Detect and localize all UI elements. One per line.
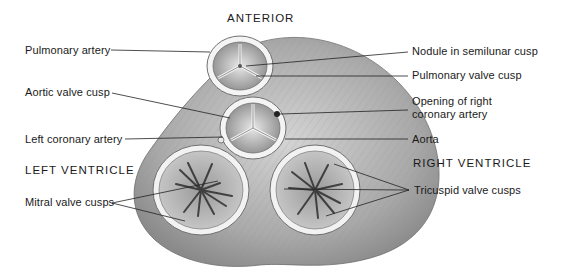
opening-rca-label-line1: Opening of right <box>412 95 492 108</box>
tricuspid-valve <box>270 145 360 235</box>
left-ventricle-label: LEFT VENTRICLE <box>25 164 135 176</box>
left-coronary-artery-label: Left coronary artery <box>25 133 122 146</box>
aorta-label: Aorta <box>412 133 439 146</box>
pulmonary-artery-label: Pulmonary artery <box>25 44 110 57</box>
tricuspid-valve-cusps-label: Tricuspid valve cusps <box>414 184 521 197</box>
anterior-label: ANTERIOR <box>227 12 294 24</box>
heart-valves-diagram: ANTERIOR Pulmonary artery Aortic valve c… <box>0 0 562 280</box>
pulmonary-valve-cusp-label: Pulmonary valve cusp <box>412 69 522 82</box>
mitral-valve <box>153 145 249 235</box>
aortic-valve-cusp-label: Aortic valve cusp <box>25 86 110 99</box>
nodule-label: Nodule in semilunar cusp <box>412 45 538 58</box>
pulmonary-valve <box>207 36 273 96</box>
right-ventricle-label: RIGHT VENTRICLE <box>413 157 531 169</box>
mitral-valve-cusps-label: Mitral valve cusps <box>25 196 114 209</box>
opening-rca-label-line2: coronary artery <box>412 108 487 121</box>
